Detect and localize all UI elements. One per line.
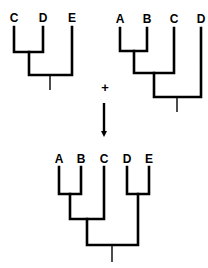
taxon-label: C <box>170 12 179 26</box>
taxon-label: A <box>116 12 125 26</box>
tree-merge-diagram: C D E A B C D + A B C D E <box>0 0 208 268</box>
taxon-label: E <box>68 11 76 25</box>
svg-text:+: + <box>101 80 109 95</box>
taxon-label: D <box>39 11 48 25</box>
taxon-label: B <box>77 152 86 166</box>
taxon-label: E <box>145 152 153 166</box>
taxon-label: C <box>100 152 109 166</box>
taxon-label: D <box>123 152 132 166</box>
branch-d-e <box>127 167 149 194</box>
branch-c-d <box>14 27 43 52</box>
taxon-label: A <box>55 152 64 166</box>
tree-left: C D E <box>10 11 76 90</box>
branch-a-b <box>120 28 147 51</box>
taxon-label: D <box>197 12 206 26</box>
tree-right: A B C D <box>116 12 206 112</box>
taxon-label: B <box>143 12 152 26</box>
branch-abc-d <box>154 28 201 97</box>
plus-icon: + <box>101 80 109 95</box>
down-arrow-icon <box>101 103 107 137</box>
branch-a-b <box>59 167 81 194</box>
taxon-label: C <box>10 11 19 25</box>
tree-result: A B C D E <box>55 152 153 262</box>
